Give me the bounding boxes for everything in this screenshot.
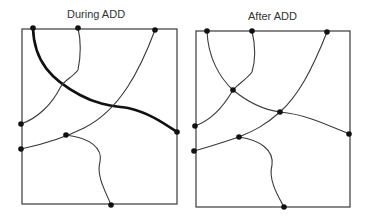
node-dot: [191, 148, 197, 154]
node-dot: [30, 25, 36, 31]
node-dot: [192, 123, 198, 129]
node-dot: [63, 132, 69, 138]
diagram-canvas: [0, 0, 369, 217]
curve: [66, 135, 111, 205]
node-dot: [281, 204, 287, 210]
curve: [239, 137, 284, 207]
node-dot: [174, 129, 180, 135]
node-dot: [75, 25, 81, 31]
panel-during-add: [18, 25, 180, 208]
curve: [194, 32, 327, 151]
curve: [21, 28, 80, 124]
node-dot: [236, 134, 242, 140]
node-dot: [249, 28, 255, 34]
node-dot: [108, 202, 114, 208]
added-curve-thick: [33, 28, 177, 132]
curve: [207, 31, 349, 134]
node-dot: [324, 29, 330, 35]
curve: [195, 31, 255, 126]
curve: [21, 30, 155, 149]
node-dot: [18, 146, 24, 152]
node-dot: [230, 87, 236, 93]
node-dot: [152, 27, 158, 33]
panel-after-add: [191, 28, 352, 210]
node-dot: [277, 109, 283, 115]
node-dot: [18, 121, 24, 127]
boundary-box: [196, 31, 350, 207]
node-dot: [204, 28, 210, 34]
node-dot: [346, 131, 352, 137]
